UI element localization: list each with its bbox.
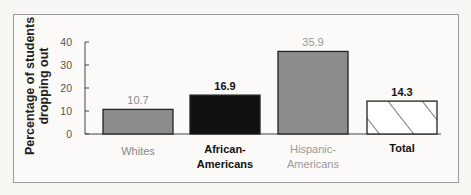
y-axis-label: Percentage of studentsdropping out (23, 17, 51, 155)
x-axis-categories: WhitesAfrican-AmericansHispanic-American… (121, 142, 415, 170)
y-tick-label: 40 (60, 36, 72, 48)
category-label: African- (204, 143, 246, 155)
y-tick-label: 10 (60, 105, 72, 117)
bar-total (367, 101, 437, 134)
y-tick-label: 0 (66, 128, 72, 140)
bar-value-label: 14.3 (391, 86, 412, 98)
y-tick-label: 20 (60, 82, 72, 94)
y-axis-label-line: Percentage of students (23, 17, 37, 155)
y-tick-label: 30 (60, 59, 72, 71)
bar-african-americans (190, 95, 260, 134)
bars: 10.716.935.914.3 (103, 36, 437, 134)
bar-value-label: 10.7 (127, 94, 148, 106)
y-axis-label-line: dropping out (37, 47, 51, 125)
category-label: Americans (287, 158, 339, 170)
bar-value-label: 35.9 (302, 36, 323, 48)
category-label: Whites (121, 145, 155, 157)
category-label: Total (389, 142, 414, 154)
bar-chart: Percentage of studentsdropping out 01020… (0, 0, 471, 195)
bar-hispanic-americans (278, 51, 348, 134)
category-label: Hispanic- (290, 143, 336, 155)
category-label: Americans (197, 158, 253, 170)
bar-whites (103, 109, 173, 134)
bar-value-label: 16.9 (214, 80, 235, 92)
